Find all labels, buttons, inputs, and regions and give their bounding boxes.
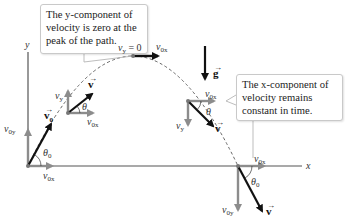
rising-point [66,111,70,115]
launch-point [26,164,30,168]
rising-velocity-label: →v [88,79,94,90]
y-axis-label: y [25,40,29,50]
gravity-label: →g [213,68,219,79]
launch-vx-label: v0x [43,171,54,184]
falling-angle-label: θ [206,107,211,117]
horizontal-callout-line-1: The x-component of [242,78,337,91]
launch-angle-arc [35,155,41,166]
horizontal-callout: The x-component of velocity remains cons… [236,74,343,121]
rising-velocity-arrow [68,94,92,113]
horizontal-callout-line-2: velocity remains [242,91,337,104]
peak-vx-label: v0x [156,42,167,55]
falling-vx-label: v0x [205,89,216,102]
rising-vy-label: vy [55,91,63,104]
rising-angle-label: θ [82,102,87,112]
rising-vx-label: v0x [87,117,98,130]
peak-callout-line-1: The y-component of [46,8,142,21]
launch-vy-label: v0y [4,124,15,137]
falling-velocity-label: →v [215,123,221,134]
horizontal-callout-line-3: constant in time. [242,104,337,117]
landing-point [236,164,240,168]
falling-vy-label: vy [176,121,184,134]
falling-point [186,99,190,103]
x-axis-label: x [306,161,310,171]
horizontal-callout-pointer-left [226,95,236,105]
falling-angle-arc [197,101,201,110]
landing-angle-label: θ0 [251,177,259,190]
launch-angle-label: θ0 [43,148,51,161]
landing-velocity-label: →v [266,206,272,217]
landing-vy-label: v0y [222,205,233,218]
peak-vy-zero-label: vy = 0 [118,43,142,56]
launch-velocity-label: →v0 [44,110,53,126]
peak-callout-line-2: velocity is zero at the [46,21,142,34]
landing-vx-label: v0x [254,154,265,167]
